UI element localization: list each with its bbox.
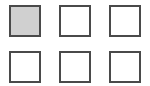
grid-tile-3[interactable] (109, 5, 141, 37)
grid-tile-4[interactable] (9, 51, 41, 83)
grid-tile-6[interactable] (109, 51, 141, 83)
grid-tile-5[interactable] (59, 51, 91, 83)
grid-tile-2[interactable] (59, 5, 91, 37)
grid-tile-1-selected[interactable] (9, 5, 41, 37)
